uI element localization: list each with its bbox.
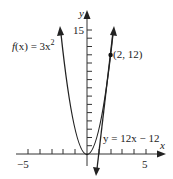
tick-label-15: 15 (73, 24, 85, 36)
x-axis (16, 149, 166, 158)
y-axis-label: y (78, 7, 84, 19)
tangent-arrow-down (93, 167, 100, 176)
point-label: (2, 12) (113, 48, 143, 61)
tick-label-5: 5 (142, 158, 148, 170)
y-axis (84, 10, 93, 166)
parabola-label-exp: 2 (51, 38, 55, 47)
parabola-label: f(x) = 3x2 (12, 38, 55, 53)
parabola-arrow-right (110, 26, 117, 36)
parabola-arrow-left (57, 26, 64, 36)
parabola-label-body: (x) = 3x (15, 40, 51, 53)
tick-label-neg5: −5 (17, 158, 29, 170)
chart: y x 15 −5 5 (2, 12) f(x) = 3x2 y = 12x −… (0, 0, 173, 179)
tangent-label: y = 12x − 12 (103, 132, 159, 144)
x-axis-label: x (159, 139, 165, 151)
